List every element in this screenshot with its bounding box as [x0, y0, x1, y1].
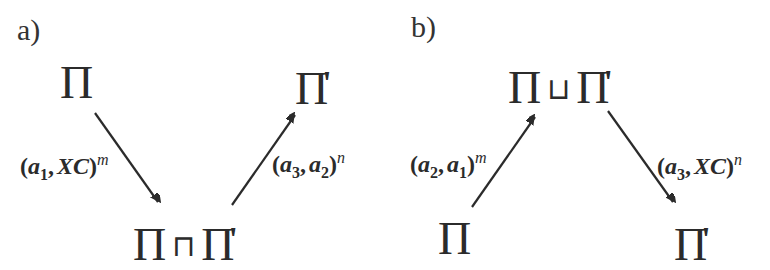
label-first-term: a: [418, 151, 430, 177]
label-first-subscript: 3: [677, 166, 685, 183]
pi-symbol: Π: [438, 213, 471, 264]
label-first-term: a: [28, 153, 40, 179]
prime-mark: ': [322, 64, 331, 101]
prime-mark: ': [603, 63, 612, 100]
label-superscript: m: [97, 151, 109, 168]
comma: ,: [300, 151, 306, 177]
open-paren: (: [20, 153, 28, 179]
node-pi-prime: Π': [295, 60, 332, 112]
label-superscript: n: [337, 149, 345, 166]
label-second-term: XC: [694, 153, 726, 179]
panel-b: b) Π⊔Π' Π Π' (a2,a1)m (a3,XC)n: [385, 0, 770, 270]
pi-symbol: Π: [60, 57, 93, 108]
prime-mark: ': [228, 220, 237, 257]
open-paren: (: [272, 151, 280, 177]
label-first-subscript: 3: [292, 164, 300, 181]
close-paren: ): [467, 151, 475, 177]
label-second-subscript: 2: [321, 164, 329, 181]
join-operator: ⊔: [547, 66, 570, 112]
label-first-term: a: [280, 151, 292, 177]
open-paren: (: [657, 153, 665, 179]
node-pi: Π: [438, 216, 471, 262]
node-pi-prime: Π': [674, 216, 711, 268]
node-pi-join-pi-prime: Π⊔Π': [508, 59, 613, 112]
prime-mark: ': [701, 220, 710, 257]
meet-operator: ⊓: [172, 223, 195, 269]
edge-label-a3-a2: (a3,a2)n: [272, 146, 345, 185]
label-second-term: a: [447, 151, 459, 177]
panel-a: a) Π Π' Π⊓Π' (a1,XC)m (a3,a2)n: [0, 0, 385, 270]
close-paren: ): [329, 151, 337, 177]
label-second-term: a: [309, 151, 321, 177]
label-second-term: XC: [57, 153, 89, 179]
close-paren: ): [89, 153, 97, 179]
label-first-term: a: [665, 153, 677, 179]
comma: ,: [438, 151, 444, 177]
label-superscript: n: [734, 151, 742, 168]
label-superscript: m: [475, 149, 487, 166]
close-paren: ): [726, 153, 734, 179]
label-first-subscript: 1: [40, 166, 48, 183]
node-pi: Π: [60, 60, 93, 106]
edge-label-a1-xc: (a1,XC)m: [20, 148, 109, 187]
label-second-subscript: 1: [459, 164, 467, 181]
pi-symbol: Π: [508, 62, 541, 113]
comma: ,: [685, 153, 691, 179]
comma: ,: [48, 153, 54, 179]
edge-label-a3-xc: (a3,XC)n: [657, 148, 742, 187]
node-pi-meet-pi-prime: Π⊓Π': [133, 216, 238, 269]
open-paren: (: [410, 151, 418, 177]
edge-label-a2-a1: (a2,a1)m: [410, 146, 487, 185]
panel-label-a: a): [17, 15, 40, 45]
pi-symbol: Π: [133, 219, 166, 270]
panel-label-b: b): [411, 12, 436, 42]
label-first-subscript: 2: [430, 164, 438, 181]
